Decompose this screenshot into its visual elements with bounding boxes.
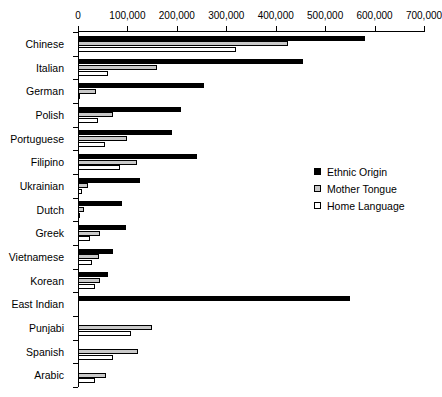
bar-spanish-mother [78,349,138,354]
x-axis-tick [424,26,425,32]
bar-portuguese-ethnic [78,130,172,135]
bar-vietnamese-mother [78,254,99,259]
y-axis-tick [73,316,78,317]
category-label-portuguese: Portuguese [10,133,64,145]
x-axis-tick [325,26,326,32]
x-axis-tick [127,26,128,32]
x-axis-tick [78,26,79,32]
legend-swatch-icon [314,185,321,192]
legend-item-mother-tongue[interactable]: Mother Tongue [314,180,405,197]
category-label-dutch: Dutch [37,204,64,216]
bar-polish-mother [78,112,113,117]
x-axis-tick [276,26,277,32]
category-label-arabic: Arabic [34,369,64,381]
category-label-korean: Korean [30,275,64,287]
bar-vietnamese-home [78,260,92,265]
x-axis-tick-label: 700,000 [406,10,442,21]
y-axis-tick [73,56,78,57]
bar-ukrainian-home [78,189,82,194]
bar-vietnamese-ethnic [78,249,113,254]
bar-greek-mother [78,231,100,236]
bar-filipino-home [78,165,120,170]
bar-korean-mother [78,278,100,283]
x-axis-tick-label: 200,000 [159,10,195,21]
y-axis-tick [73,174,78,175]
bar-polish-ethnic [78,107,181,112]
y-axis-tick [73,103,78,104]
bar-east-indian-ethnic [78,296,350,301]
bar-german-mother [78,89,96,94]
category-label-chinese: Chinese [25,38,64,50]
legend-swatch-icon [314,168,321,175]
bar-italian-ethnic [78,59,303,64]
x-axis-tick-label: 500,000 [307,10,343,21]
y-axis-tick [73,32,78,33]
y-axis-tick [73,340,78,341]
category-label-vietnamese: Vietnamese [9,251,64,263]
legend-swatch-icon [314,202,321,209]
bar-chinese-mother [78,41,288,46]
bar-korean-ethnic [78,272,108,277]
bar-dutch-mother [78,207,84,212]
x-axis-tick [177,26,178,32]
bar-filipino-mother [78,160,137,165]
x-axis-tick [375,26,376,32]
bar-portuguese-home [78,142,105,147]
bar-chinese-ethnic [78,36,365,41]
legend-label: Mother Tongue [327,183,397,195]
bar-greek-home [78,236,90,241]
bar-arabic-mother [78,373,106,378]
bar-arabic-home [78,378,95,383]
bar-greek-ethnic [78,225,126,230]
category-label-spanish: Spanish [26,346,64,358]
bar-korean-home [78,284,95,289]
y-axis-tick [73,221,78,222]
legend-label: Ethnic Origin [327,166,387,178]
y-axis-tick [73,269,78,270]
bar-german-ethnic [78,83,204,88]
bar-german-home [78,94,80,99]
category-label-polish: Polish [35,109,64,121]
y-axis-tick [73,387,78,388]
bar-punjabi-home [78,331,131,336]
bar-ukrainian-ethnic [78,178,140,183]
bar-chinese-home [78,47,236,52]
bar-italian-home [78,71,108,76]
x-axis-tick-label: 600,000 [356,10,392,21]
bar-filipino-ethnic [78,154,197,159]
legend-item-home-language[interactable]: Home Language [314,197,405,214]
y-axis-tick [73,363,78,364]
category-label-filipino: Filipino [31,156,64,168]
legend-label: Home Language [327,200,405,212]
x-axis-tick-label: 100,000 [109,10,145,21]
x-axis-tick-label: 0 [75,10,81,21]
category-label-italian: Italian [36,62,64,74]
bar-dutch-ethnic [78,201,122,206]
bar-punjabi-mother [78,325,152,330]
category-label-greek: Greek [35,227,64,239]
category-label-punjabi: Punjabi [29,322,64,334]
bar-spanish-home [78,355,113,360]
chart-legend: Ethnic OriginMother TongueHome Language [314,163,405,214]
bar-polish-home [78,118,98,123]
category-label-ukrainian: Ukrainian [20,180,64,192]
bar-ukrainian-mother [78,183,88,188]
bar-dutch-home [78,213,80,218]
x-axis-tick [226,26,227,32]
bar-italian-mother [78,65,157,70]
y-axis-tick [73,79,78,80]
legend-item-ethnic-origin[interactable]: Ethnic Origin [314,163,405,180]
y-axis-tick [73,150,78,151]
category-label-east-indian: East Indian [11,298,64,310]
y-axis-tick [73,127,78,128]
x-axis-tick-label: 400,000 [258,10,294,21]
x-axis-tick-label: 300,000 [208,10,244,21]
y-axis-tick [73,292,78,293]
y-axis-tick [73,198,78,199]
category-label-german: German [26,85,64,97]
bar-portuguese-mother [78,136,127,141]
y-axis-tick [73,245,78,246]
